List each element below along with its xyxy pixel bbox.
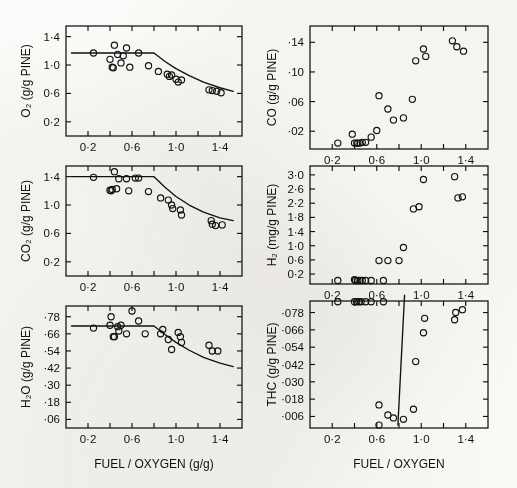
x-tick-label: 1·4	[212, 433, 229, 445]
figure-root: 0·20·61·01·40·20·61·01·4O₂ (g/g PINE)0·2…	[0, 0, 517, 488]
figure-background	[0, 0, 517, 488]
y-axis-title: O₂ (g/g PINE)	[19, 44, 33, 117]
y-tick-label: ·018	[281, 393, 304, 405]
y-tick-label: 1·4	[287, 226, 304, 238]
y-tick-label: 3·0	[287, 169, 304, 181]
y-tick-label: ·02	[287, 125, 304, 137]
x-tick-label: 0·2	[324, 154, 341, 166]
y-tick-label: ·066	[281, 324, 304, 336]
y-tick-label: ·078	[281, 307, 304, 319]
x-tick-label: 1·0	[168, 281, 185, 293]
y-axis-title: H₂O (g/g PINE)	[19, 326, 33, 408]
y-tick-label: 1·8	[287, 211, 304, 223]
y-tick-label: ·006	[281, 410, 304, 422]
y-tick-label: 1·0	[43, 59, 60, 71]
x-tick-label: 0·6	[124, 433, 141, 445]
x-tick-label: 1·0	[413, 289, 430, 301]
y-tick-label: ·42	[43, 362, 60, 374]
y-tick-label: ·54	[43, 345, 60, 357]
x-tick-label: 1·0	[413, 154, 430, 166]
y-tick-label: 0·6	[43, 87, 60, 99]
y-tick-label: 0·2	[43, 116, 60, 128]
y-tick-label: 1·0	[43, 199, 60, 211]
x-tick-label: 1·4	[457, 289, 474, 301]
y-tick-label: 2·2	[287, 197, 304, 209]
x-tick-label: 1·0	[168, 141, 185, 153]
x-tick-label: 0·6	[368, 433, 385, 445]
y-axis-title: CO₂ (g/g PINE)	[19, 180, 33, 262]
y-axis-title: H₂ (mg/g PINE)	[265, 184, 279, 267]
y-tick-label: 0·2	[287, 268, 304, 280]
y-tick-label: ·042	[281, 359, 304, 371]
x-axis-title-right: FUEL / OXYGEN	[353, 457, 445, 471]
y-tick-label: ·054	[281, 341, 305, 353]
y-tick-label: ·30	[43, 379, 60, 391]
y-tick-label: ·10	[287, 66, 304, 78]
y-tick-label: 0·6	[43, 227, 60, 239]
y-tick-label: ·66	[43, 328, 60, 340]
x-tick-label: 1·4	[212, 141, 229, 153]
x-tick-label: 1·4	[212, 281, 229, 293]
y-tick-label: ·18	[43, 396, 60, 408]
y-tick-label: 1·4	[43, 31, 60, 43]
y-tick-label: ·030	[281, 376, 304, 388]
x-tick-label: 0·2	[80, 141, 97, 153]
x-tick-label: 0·6	[368, 154, 385, 166]
x-tick-label: 0·2	[80, 433, 97, 445]
y-tick-label: 1·0	[287, 240, 304, 252]
x-tick-label: 0·6	[124, 281, 141, 293]
y-tick-label: ·78	[43, 311, 60, 323]
x-tick-label: 0·6	[124, 141, 141, 153]
y-tick-label: 1·4	[43, 171, 60, 183]
y-tick-label: ·14	[287, 36, 304, 48]
x-tick-label: 0·2	[80, 281, 97, 293]
x-tick-label: 1·4	[457, 154, 474, 166]
x-tick-label: 1·0	[413, 433, 430, 445]
y-axis-title: CO (g/g PINE)	[265, 49, 279, 126]
y-axis-title: THC (g/g PINE)	[265, 322, 279, 406]
x-tick-label: 1·4	[457, 433, 474, 445]
y-tick-label: 2·6	[287, 183, 304, 195]
y-tick-label: 0·6	[287, 254, 304, 266]
y-tick-label: ·06	[43, 413, 60, 425]
x-tick-label: 1·0	[168, 433, 185, 445]
x-tick-label: 0·2	[324, 433, 341, 445]
y-tick-label: ·06	[287, 96, 304, 108]
x-axis-title-left: FUEL / OXYGEN (g/g)	[94, 457, 214, 471]
y-tick-label: 0·2	[43, 256, 60, 268]
